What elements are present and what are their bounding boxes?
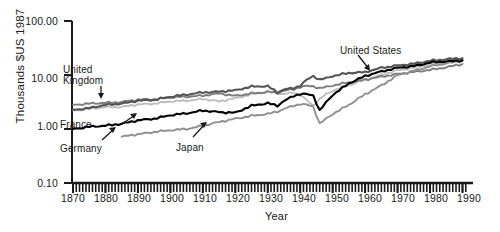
gdp-per-capita-chart: Thousands $US 1987 100.00 10.00 1.00 0.1… (0, 0, 500, 232)
arrow-united-states-head (364, 64, 370, 71)
arrow-united-kingdom-head (98, 93, 104, 99)
series-line-germany (73, 60, 463, 129)
plot-canvas (0, 0, 500, 232)
